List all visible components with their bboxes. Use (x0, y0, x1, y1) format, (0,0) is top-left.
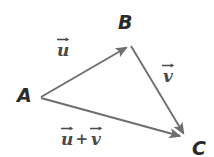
vector-sum-v-letter: v (91, 131, 101, 148)
vector-v-label: v (163, 62, 173, 85)
plus-operator: + (73, 132, 91, 147)
point-label-c: C (192, 139, 206, 157)
vector-u-letter: u (57, 42, 69, 59)
vector-canvas (0, 0, 214, 157)
vector-v-letter: v (163, 68, 173, 85)
point-label-b: B (118, 13, 132, 32)
vector-sum-label: u + v (61, 125, 101, 148)
vector-sum-u-letter: u (61, 131, 73, 148)
vector-u-symbol: u (57, 36, 69, 59)
vector-u-arrow (41, 48, 127, 98)
point-label-a: A (17, 86, 32, 105)
vector-v-symbol: v (163, 62, 173, 85)
vector-u-label: u (57, 36, 69, 59)
vector-diagram: u v u + v A B C (0, 0, 214, 157)
vector-sum-u-symbol: u (61, 125, 73, 148)
vector-v-arrow (131, 46, 184, 134)
vector-sum-v-symbol: v (91, 125, 101, 148)
